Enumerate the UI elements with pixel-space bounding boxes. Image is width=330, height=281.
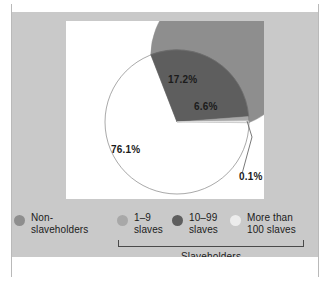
legend-item-non-slaveholders[interactable]: Non- slaveholders [14,212,88,235]
figure-root: 17.2% 6.6% 76.1% 0.1% Non- slaveholders … [0,0,330,281]
legend-item-1-9-slaves[interactable]: 1–9 slaves [117,212,163,235]
clipped-top-caption [14,0,304,4]
legend-swatch-1-9-slaves [117,215,128,226]
slice-value-non-slaveholders: 76.1% [111,144,140,155]
pie-plot-area [66,21,264,199]
legend-label-1-9-slaves: 1–9 slaves [134,212,163,235]
legend-label-non-slaveholders: Non- slaveholders [31,212,88,235]
legend-item-10-99-slaves[interactable]: 10–99 slaves [172,212,218,235]
slice-value-10-99-slaves: 17.2% [168,74,197,85]
page-rule-right [318,4,319,277]
pie-chart [66,21,264,199]
leader-line-0-1-percent [243,121,253,172]
slaveholders-bracket [118,240,304,247]
legend-swatch-10-99-slaves [172,215,183,226]
panel-footer-strip [12,257,318,269]
legend-swatch-non-slaveholders [14,215,25,226]
figure-panel: 17.2% 6.6% 76.1% 0.1% Non- slaveholders … [12,12,318,257]
legend-label-10-99-slaves: 10–99 slaves [189,212,218,235]
legend-swatch-more-than-100-slaves [230,215,241,226]
bracket-tick-right [303,240,304,247]
legend-label-more-than-100-slaves: More than 100 slaves [247,212,296,235]
slice-value-more-than-100-slaves: 0.1% [239,171,263,182]
legend-item-more-than-100-slaves[interactable]: More than 100 slaves [230,212,296,235]
bracket-bar [118,246,304,247]
chart-legend: Non- slaveholders 1–9 slaves 10–99 slave… [12,205,318,241]
slice-value-1-9-slaves: 6.6% [194,101,218,112]
